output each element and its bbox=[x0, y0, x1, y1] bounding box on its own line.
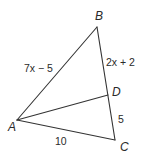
point-label-c: C bbox=[120, 141, 129, 153]
length-label-ab: 7x − 5 bbox=[24, 63, 53, 74]
point-label-b: B bbox=[95, 10, 103, 22]
length-label-ac: 10 bbox=[55, 136, 67, 147]
segment-bc bbox=[97, 27, 115, 140]
length-label-bd: 2x + 2 bbox=[106, 57, 135, 68]
length-label-dc: 5 bbox=[118, 114, 124, 125]
triangle-lines bbox=[0, 0, 142, 156]
point-label-d: D bbox=[112, 86, 121, 98]
point-label-a: A bbox=[8, 121, 16, 133]
segment-ad bbox=[17, 95, 108, 120]
triangle-diagram: B 7x − 5 2x + 2 D A 5 10 C bbox=[0, 0, 142, 156]
